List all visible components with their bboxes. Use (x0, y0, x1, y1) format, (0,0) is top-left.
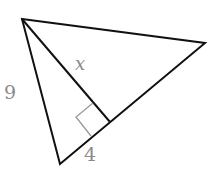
triangle-abc (22, 19, 205, 164)
label-side-9: 9 (4, 81, 16, 103)
label-altitude-x: x (75, 53, 85, 74)
label-segment-4: 4 (84, 143, 96, 165)
right-angle-marker (76, 103, 93, 136)
triangle-diagram: 9 x 4 (0, 0, 212, 177)
